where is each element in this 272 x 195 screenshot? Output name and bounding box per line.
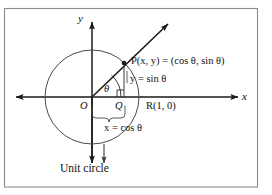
x-axis-label: x	[242, 91, 247, 102]
y-axis-label: y	[78, 13, 83, 24]
unit-circle-figure: y x O P(x, y) = (cos θ, sin θ) y = sin θ…	[0, 0, 272, 195]
theta-label: θ	[104, 84, 109, 95]
point-q-label: Q	[115, 101, 123, 112]
diagram-canvas	[0, 0, 272, 195]
point-p-marker	[122, 61, 127, 66]
cos-leg-label: x = cos θ	[104, 123, 142, 134]
figure-caption: Unit circle	[60, 163, 109, 175]
point-r-label: R(1, 0)	[146, 101, 176, 112]
sin-leg-label: y = sin θ	[130, 74, 166, 85]
angle-arc	[112, 75, 121, 97]
origin-label: O	[80, 101, 88, 112]
point-p-label: P(x, y) = (cos θ, sin θ)	[131, 56, 225, 67]
